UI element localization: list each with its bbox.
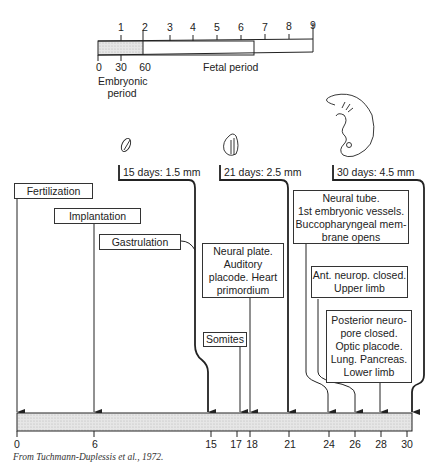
neural-plate-line1: Neural plate. xyxy=(203,245,283,258)
somites-box: Somites xyxy=(203,332,247,347)
month-scale xyxy=(98,23,313,61)
axis-tick-26: 26 xyxy=(349,438,361,450)
month-tick-3: 3 xyxy=(167,21,173,33)
posterior-neuro-line3: Optic placode. xyxy=(327,340,411,353)
embryonic-label-line1: Embryonic xyxy=(98,75,146,87)
neural-tube-line4: brane opens xyxy=(294,231,408,244)
ant-neurop-line1: Ant. neurop. closed. xyxy=(312,269,407,282)
neural-tube-line1: Neural tube. xyxy=(294,192,408,205)
axis-tick-30: 30 xyxy=(401,438,413,450)
neural-plate-box: Neural plate. Auditory placode. Heart pr… xyxy=(202,243,284,298)
axis-tick-21: 21 xyxy=(284,438,296,450)
embryo-30-days-drawing xyxy=(327,94,374,157)
month-tick-1: 1 xyxy=(118,21,124,33)
axis-tick-6: 6 xyxy=(92,438,98,450)
implantation-box: Implantation xyxy=(54,208,141,224)
fetal-period-label: Fetal period xyxy=(203,61,258,73)
embryo-21-days-drawing xyxy=(224,134,238,155)
embryonic-label-line2: period xyxy=(98,87,146,99)
day-axis-bar xyxy=(17,413,412,437)
axis-tick-18: 18 xyxy=(246,438,258,450)
month-tick-5: 5 xyxy=(214,21,220,33)
axis-tick-15: 15 xyxy=(205,438,217,450)
month-tick-8: 8 xyxy=(286,20,292,32)
axis-tick-24: 24 xyxy=(323,438,335,450)
day-tick-0: 0 xyxy=(96,61,102,73)
month-tick-2: 2 xyxy=(142,21,148,33)
axis-tick-28: 28 xyxy=(375,438,387,450)
neural-tube-line3: Buccopharyngeal mem- xyxy=(294,218,408,231)
ant-neurop-line2: Upper limb xyxy=(312,282,407,295)
neural-tube-box: Neural tube. 1st embryonic vessels. Bucc… xyxy=(293,190,409,244)
ant-neurop-box: Ant. neurop. closed. Upper limb xyxy=(311,266,408,298)
month-tick-7: 7 xyxy=(262,21,268,33)
day-tick-30: 30 xyxy=(115,61,127,73)
posterior-neuro-line4: Lung. Pancreas. xyxy=(327,353,411,366)
posterior-neuropore-box: Posterior neuro- pore closed. Optic plac… xyxy=(326,310,412,383)
day-tick-60: 60 xyxy=(139,61,151,73)
axis-tick-0: 0 xyxy=(14,438,20,450)
posterior-neuro-line2: pore closed. xyxy=(327,327,411,340)
posterior-neuro-line5: Lower limb xyxy=(327,366,411,379)
month-tick-6: 6 xyxy=(238,21,244,33)
neural-plate-line3: placode. Heart xyxy=(203,271,283,284)
posterior-neuro-line1: Posterior neuro- xyxy=(327,314,411,327)
fertilization-box: Fertilization xyxy=(14,183,93,199)
embryo-15-days-drawing xyxy=(119,137,132,153)
stage-30-days: 30 days: 4.5 mm xyxy=(333,166,415,178)
source-caption: From Tuchmann-Duplessis et al., 1972. xyxy=(13,452,163,462)
stage-15-days: 15 days: 1.5 mm xyxy=(119,166,201,178)
stage-21-days: 21 days: 2.5 mm xyxy=(220,166,302,178)
gastrulation-box: Gastrulation xyxy=(99,234,181,250)
neural-plate-line2: Auditory xyxy=(203,258,283,271)
neural-plate-line4: primordium xyxy=(203,284,283,297)
embryonic-period-label: Embryonic period xyxy=(98,75,146,99)
axis-tick-17: 17 xyxy=(230,438,242,450)
month-tick-4: 4 xyxy=(190,21,196,33)
neural-tube-line2: 1st embryonic vessels. xyxy=(294,205,408,218)
month-tick-9: 9 xyxy=(310,19,316,31)
